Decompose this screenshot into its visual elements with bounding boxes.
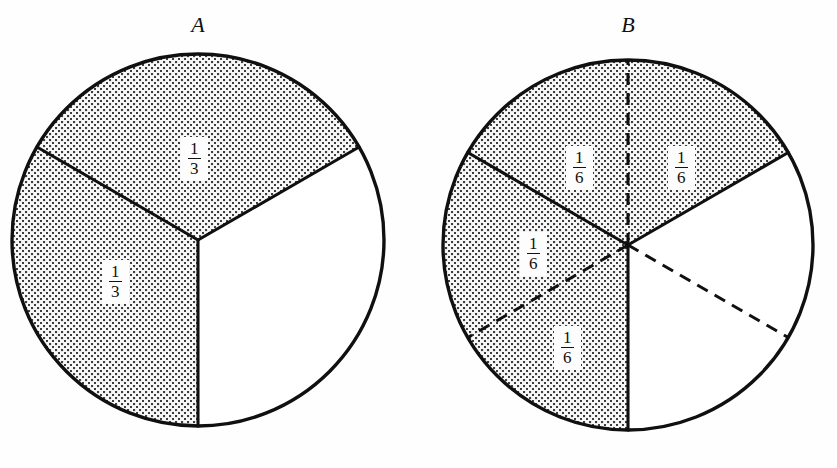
- circle-b-fraction-top-right: 1 6: [668, 146, 695, 190]
- fraction-numerator: 1: [573, 149, 586, 168]
- circle-b-fraction-bottom-left: 1 6: [554, 326, 581, 370]
- fraction-numerator: 1: [527, 235, 540, 254]
- fraction-numerator: 1: [675, 149, 688, 168]
- fraction-denominator: 6: [573, 168, 586, 186]
- fraction-numerator: 1: [109, 263, 122, 282]
- circle-a-fraction-left: 1 3: [102, 260, 129, 304]
- fraction-denominator: 6: [527, 254, 540, 272]
- fraction-numerator: 1: [561, 329, 574, 348]
- fraction-denominator: 6: [561, 348, 574, 366]
- fraction-denominator: 3: [109, 282, 122, 300]
- fraction-denominator: 6: [675, 168, 688, 186]
- circle-b-fraction-top-left: 1 6: [566, 146, 593, 190]
- fraction-numerator: 1: [188, 140, 201, 159]
- circle-a-fraction-top: 1 3: [181, 137, 208, 181]
- fraction-denominator: 3: [188, 159, 201, 177]
- fraction-circles-figure: A 1 3 1 3 B: [0, 0, 837, 468]
- circle-a-diagram: [0, 0, 420, 468]
- circle-b-diagram: [420, 0, 837, 468]
- circle-b-fraction-middle-left: 1 6: [520, 232, 547, 276]
